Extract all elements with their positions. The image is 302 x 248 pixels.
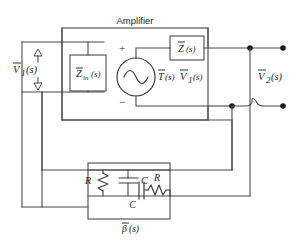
- resistor-shunt-label: R: [84, 175, 91, 186]
- capacitor-shunt-label: C: [141, 175, 148, 186]
- amplifier-label: Amplifier: [117, 15, 154, 26]
- input-voltage-v: V: [13, 64, 21, 75]
- input-arrow-up-icon: [34, 49, 42, 56]
- source-plus-sign: +: [119, 42, 125, 54]
- series-impedance-arg: (s): [186, 44, 196, 54]
- resistor-series-label: R: [153, 172, 160, 183]
- input-voltage-label: V 1 (s): [13, 63, 38, 78]
- input-impedance-label: Z in (s): [76, 68, 101, 82]
- input-impedance-z: Z: [76, 68, 82, 79]
- wire-source-to-series-z: [136, 48, 170, 58]
- series-impedance-label: Z (s): [178, 42, 196, 54]
- feedback-network-label: β (s): [121, 223, 139, 235]
- output-voltage-v: V: [258, 71, 266, 82]
- source-label-t-arg: (s): [165, 72, 175, 82]
- capacitor-series-label: C: [129, 199, 136, 210]
- source-gain-label: T (s) V 1 (s): [158, 70, 203, 85]
- circuit-schematic-svg: Amplifier V 1 (s) Z in (s) Z (s) + − T: [0, 0, 302, 248]
- output-terminal-bottom: [280, 103, 286, 109]
- source-label-v: V: [180, 71, 188, 82]
- source-label-v-sub: 1: [188, 75, 193, 85]
- wire-hop-crossover: [232, 99, 283, 107]
- output-terminal-top: [280, 45, 286, 51]
- output-voltage-arg: (s): [271, 71, 283, 83]
- wire-input-bottom-return: [22, 92, 42, 207]
- resistor-series-horizontal: [148, 185, 170, 195]
- input-impedance-arg: (s): [91, 69, 101, 79]
- circuit-diagram: Amplifier V 1 (s) Z in (s) Z (s) + − T: [0, 0, 302, 248]
- feedback-beta-arg: (s): [129, 224, 139, 235]
- output-voltage-label: V 2 (s): [258, 70, 283, 85]
- source-minus-sign: −: [119, 96, 125, 108]
- resistor-shunt-vertical: [98, 173, 108, 191]
- input-arrow-down-icon: [34, 83, 42, 90]
- sine-wave-icon: [124, 71, 148, 84]
- source-label-v-arg: (s): [193, 72, 203, 82]
- input-voltage-arg: (s): [26, 64, 38, 76]
- input-voltage-subscript: 1: [21, 68, 26, 78]
- feedback-beta: β: [121, 224, 127, 234]
- series-impedance-z: Z: [178, 43, 184, 54]
- wire-source-bottom: [136, 96, 208, 106]
- input-impedance-sub: in: [83, 74, 89, 82]
- source-label-t: T: [158, 71, 165, 82]
